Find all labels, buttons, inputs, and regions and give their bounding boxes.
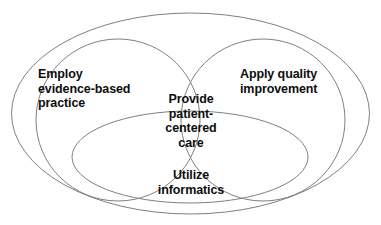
- venn-diagram: Employ evidence-based practice Apply qua…: [0, 0, 381, 225]
- set-label-quality: Apply quality improvement: [240, 67, 360, 96]
- intersection-label-patient-centered-care: Provide patient- centered care: [150, 92, 232, 150]
- set-label-evidence: Employ evidence-based practice: [38, 67, 158, 111]
- set-label-informatics: Utilize informatics: [128, 168, 254, 197]
